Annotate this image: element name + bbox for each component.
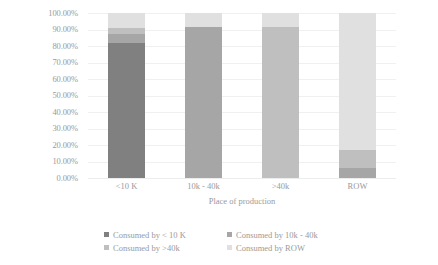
gridline <box>88 178 396 179</box>
legend-label: Consumed by < 10 K <box>113 230 186 240</box>
bar-segment <box>108 13 145 28</box>
y-axis-tick-label: 30.00% <box>52 124 78 133</box>
x-axis-tick-label: 10k - 40k <box>169 181 239 191</box>
legend-swatch-icon <box>104 245 109 250</box>
y-axis-tick-label: 10.00% <box>52 157 78 166</box>
legend-swatch-icon <box>227 245 232 250</box>
legend-label: Consumed by ROW <box>236 243 305 253</box>
y-axis-tick-label: 90.00% <box>52 25 78 34</box>
legend-item[interactable]: Consumed by ROW <box>227 241 350 254</box>
legend-item[interactable]: Consumed by < 10 K <box>104 228 227 241</box>
bar-segment <box>262 13 299 27</box>
bar-row[interactable] <box>339 13 376 178</box>
y-axis-tick-label: 80.00% <box>52 42 78 51</box>
y-axis-tick-label: 70.00% <box>52 58 78 67</box>
bar-segment <box>108 34 145 42</box>
stacked-bar-chart: 100.00%90.00%80.00%70.00%60.00%50.00%40.… <box>0 0 438 265</box>
y-axis-tick-label: 50.00% <box>52 91 78 100</box>
x-axis-tick-label: <10 K <box>92 181 162 191</box>
plot-area <box>88 13 396 178</box>
bar-segment <box>339 150 376 168</box>
bar-segment <box>185 27 222 178</box>
bar--40k[interactable] <box>262 13 299 178</box>
bar-segment <box>339 13 376 150</box>
x-axis-tick-label: ROW <box>323 181 393 191</box>
legend-item[interactable]: Consumed by 10k - 40k <box>227 228 350 241</box>
x-axis-tick-label: >40k <box>246 181 316 191</box>
y-axis-tick-label: 60.00% <box>52 75 78 84</box>
y-axis-tick-label: 40.00% <box>52 108 78 117</box>
bar-segment <box>185 13 222 27</box>
y-axis-tick-label: 100.00% <box>48 9 78 18</box>
bar-segment <box>108 43 145 178</box>
legend-item[interactable]: Consumed by >40k <box>104 241 227 254</box>
x-axis-labels: <10 K10k - 40k>40kROW <box>88 181 396 197</box>
bar-10k-40k[interactable] <box>185 13 222 178</box>
y-axis-tick-label: 20.00% <box>52 141 78 150</box>
legend-label: Consumed by >40k <box>113 243 180 253</box>
y-axis: 100.00%90.00%80.00%70.00%60.00%50.00%40.… <box>0 0 86 190</box>
y-axis-tick-label: 0.00% <box>57 174 78 183</box>
chart-legend: Consumed by < 10 KConsumed by 10k - 40kC… <box>104 228 350 254</box>
bar--10-k[interactable] <box>108 13 145 178</box>
bar-segment <box>262 27 299 178</box>
bar-segment <box>339 168 376 178</box>
legend-swatch-icon <box>104 232 109 237</box>
legend-label: Consumed by 10k - 40k <box>236 230 318 240</box>
legend-swatch-icon <box>227 232 232 237</box>
x-axis-title: Place of production <box>88 196 396 206</box>
bar-segment <box>108 28 145 35</box>
